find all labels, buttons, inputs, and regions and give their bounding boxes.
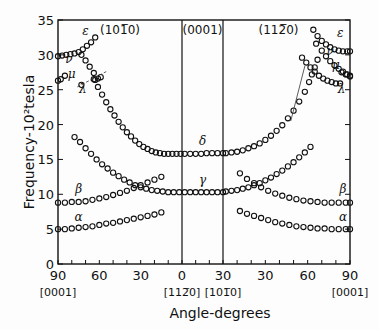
data-point-epsilon: [311, 27, 316, 32]
data-point-alpha: [315, 226, 320, 231]
curve-label: ν: [65, 52, 72, 66]
x-tick-label: 30: [257, 268, 274, 283]
data-point-delta: [215, 151, 220, 156]
data-point-gamma: [188, 190, 193, 195]
data-point-alpha: [138, 215, 143, 220]
data-point-beta: [62, 200, 67, 205]
x-tick-label: 0: [178, 268, 186, 283]
data-point-delta: [285, 116, 290, 121]
curve-label: γ: [199, 173, 207, 187]
chart-svg: 05101520253035906030030306090[0001][112̅…: [0, 0, 379, 330]
data-point-alpha: [266, 217, 271, 222]
data-point-alpha: [62, 227, 67, 232]
data-point-beta: [329, 200, 334, 205]
data-point-beta: [301, 198, 306, 203]
data-point-gamma: [149, 188, 154, 193]
data-point-gamma: [182, 190, 187, 195]
y-axis-label: Frequency-10²tesla: [21, 75, 37, 209]
data-point-alpha: [259, 215, 264, 220]
data-point-beta: [336, 200, 341, 205]
x-axis-label: Angle-degrees: [169, 305, 270, 321]
data-point-alpha: [97, 222, 102, 227]
y-tick-label: 15: [37, 152, 54, 167]
data-point-delta: [188, 151, 193, 156]
data-point-beta: [117, 190, 122, 195]
data-point-delta: [274, 128, 279, 133]
data-point-gamma: [209, 190, 214, 195]
y-tick-label: 25: [37, 83, 54, 98]
data-point-beta: [280, 193, 285, 198]
data-point-delta: [193, 151, 198, 156]
data-point-beta: [237, 171, 242, 176]
data-point-nu: [87, 64, 92, 69]
data-point-gamma: [229, 188, 234, 193]
data-point-alpha: [301, 224, 306, 229]
data-point-beta: [315, 199, 320, 204]
data-point-beta: [145, 180, 150, 185]
data-point-delta: [268, 133, 273, 138]
data-point-delta: [204, 151, 209, 156]
data-point-alpha: [237, 208, 242, 213]
data-point-nu: [314, 41, 319, 46]
data-point-delta: [302, 89, 307, 94]
data-point-beta: [124, 188, 129, 193]
data-point-beta: [244, 176, 249, 181]
data-point-epsilon: [93, 35, 98, 40]
data-point-gamma: [199, 190, 204, 195]
data-point-gamma: [215, 190, 220, 195]
data-point-gamma: [246, 185, 251, 190]
y-tick-label: 30: [37, 48, 54, 63]
data-point-beta: [294, 197, 299, 202]
data-point-alpha: [124, 217, 129, 222]
data-point-delta: [209, 151, 214, 156]
data-point-delta: [108, 107, 113, 112]
curve-label: μ: [68, 67, 76, 81]
data-point-alpha: [287, 222, 292, 227]
curve-label: ε: [82, 24, 88, 38]
data-point-gamma: [193, 190, 198, 195]
data-point-gamma: [274, 171, 279, 176]
data-point-alpha: [273, 220, 278, 225]
data-point-alpha: [159, 210, 164, 215]
data-point-gamma: [105, 166, 110, 171]
data-point-alpha: [69, 226, 74, 231]
data-point-gamma: [297, 155, 302, 160]
data-point-gamma: [308, 144, 313, 149]
curve-label: μ: [332, 58, 340, 72]
direction-label: [0001]: [40, 286, 77, 299]
data-point-delta: [116, 119, 121, 124]
data-point-alpha: [336, 227, 341, 232]
data-point-alpha: [294, 224, 299, 229]
data-point-alpha: [145, 213, 150, 218]
data-point-nu: [91, 70, 96, 75]
data-point-delta: [240, 148, 245, 153]
data-point-delta: [315, 57, 320, 62]
data-point-gamma: [77, 139, 82, 144]
panel-title: (101̅0): [100, 23, 140, 37]
data-point-delta: [280, 123, 285, 128]
curve-label: λ: [78, 82, 87, 96]
data-point-delta: [104, 100, 109, 105]
data-point-gamma: [177, 190, 182, 195]
data-point-delta: [199, 151, 204, 156]
x-tick-label: 60: [299, 268, 316, 283]
curve-label: β: [338, 182, 346, 196]
data-point-lambda: [304, 60, 309, 65]
data-point-beta: [69, 199, 74, 204]
curve-labels: ενμλβαδγενμλβα: [65, 24, 347, 223]
data-point-gamma: [83, 146, 88, 151]
y-tick-label: 20: [37, 118, 54, 133]
data-point-alpha: [244, 211, 249, 216]
data-point-gamma: [127, 180, 132, 185]
data-point-gamma: [280, 168, 285, 173]
data-point-gamma: [144, 186, 149, 191]
curve-label: ε: [337, 26, 343, 40]
data-point-delta: [297, 99, 302, 104]
curve-label: δ: [199, 134, 206, 148]
data-point-delta: [120, 125, 125, 130]
data-point-beta: [104, 194, 109, 199]
data-point-alpha: [104, 221, 109, 226]
direction-label: [0001]: [332, 286, 369, 299]
data-point-alpha: [76, 225, 81, 230]
data-point-gamma: [268, 175, 273, 180]
